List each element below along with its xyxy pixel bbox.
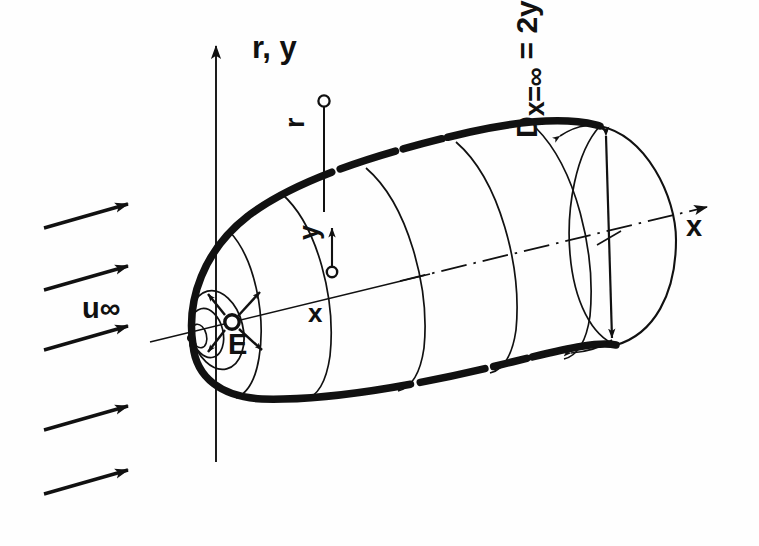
stream-arrow-2 [44, 266, 128, 290]
radial-coordinate-label: r [282, 117, 309, 128]
body-outline [192, 121, 616, 400]
stream-arrow-1 [44, 204, 128, 228]
figure-canvas: r, y r y x x E u∞ Dx=∞ = 2ymax [0, 0, 759, 546]
stream-arrow-3 [44, 326, 128, 350]
stream-arrow-4 [44, 406, 128, 430]
y-ordinate-origin-marker [327, 267, 337, 277]
axial-axis-label: x [686, 212, 702, 241]
diameter-label: Dx=∞ = 2ymax [512, 0, 549, 138]
ring-4 [456, 142, 517, 373]
diameter-label-prefix: D [510, 116, 543, 138]
local-radius-label: y [296, 225, 323, 240]
body-outline-upper [192, 121, 600, 345]
freestream-velocity-label: u∞ [82, 294, 120, 323]
vertical-axis-label: r, y [252, 32, 297, 63]
centerline-dashdot [400, 207, 707, 281]
ring-5 [536, 128, 591, 359]
r-ordinate-top-marker [318, 95, 329, 106]
diagram-svg [0, 0, 759, 546]
diameter-label-subscript: x=∞ [520, 68, 550, 117]
stagnation-point-marker [187, 334, 194, 341]
source-point-label: E [228, 330, 247, 359]
freestream-arrows [44, 204, 128, 494]
source-arrow-up-right [238, 292, 260, 316]
diameter-label-equals: = 2y [510, 0, 543, 68]
diameter-leader-top [560, 126, 607, 136]
y-ordinate-group [327, 228, 337, 277]
r-ordinate-group [318, 95, 329, 212]
axial-coordinate-label: x [308, 300, 322, 326]
ring-3 [366, 168, 425, 391]
stream-arrow-5 [44, 470, 128, 494]
